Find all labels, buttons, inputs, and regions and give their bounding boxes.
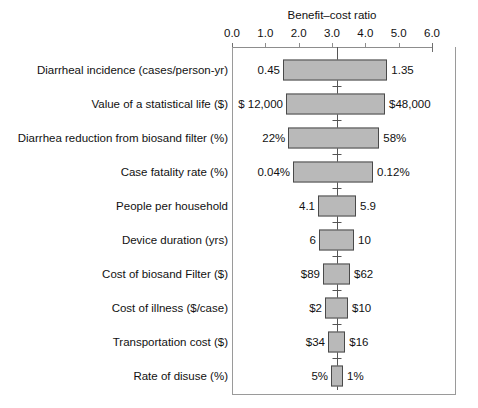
chart-row: Device duration (yrs)610 (0, 223, 478, 257)
bar-low-value-label: 6 (0, 234, 316, 246)
chart-row: Value of a statistical life ($)$ 12,000$… (0, 87, 478, 121)
bar-high-value-label: 1% (347, 370, 364, 382)
x-tick-label: 2.0 (291, 27, 307, 39)
axis-title: Benefit–cost ratio (232, 9, 432, 21)
bar-high-value-label: 58% (383, 132, 406, 144)
x-tick-label: 4.0 (357, 27, 373, 39)
bar-low-value-label: 5% (0, 370, 328, 382)
x-tick-label: 3.0 (324, 27, 340, 39)
tornado-bar (286, 94, 385, 115)
bar-low-value-label: 0.45 (0, 64, 280, 76)
chart-row: Diarrhea reduction from biosand filter (… (0, 121, 478, 155)
bar-low-value-label: 22% (0, 132, 285, 144)
bar-low-value-label: 0.04% (0, 166, 290, 178)
bar-high-value-label: 10 (358, 234, 371, 246)
bar-low-value-label: $34 (0, 336, 325, 348)
x-tick-label: 6.0 (424, 27, 440, 39)
tornado-bar (328, 332, 345, 353)
chart-row: Rate of disuse (%)5%1% (0, 359, 478, 393)
bar-high-value-label: $48,000 (389, 98, 431, 110)
tornado-bar (283, 60, 387, 81)
bar-high-value-label: 1.35 (391, 64, 413, 76)
tornado-bar (323, 264, 350, 285)
bar-low-value-label: $2 (0, 302, 322, 314)
bar-high-value-label: $62 (354, 268, 373, 280)
tornado-bar (325, 298, 348, 319)
chart-row: Case fatality rate (%)0.04%0.12% (0, 155, 478, 189)
x-tick-label: 5.0 (391, 27, 407, 39)
x-tick-label: 0.0 (224, 27, 240, 39)
bar-high-value-label: 5.9 (360, 200, 376, 212)
bar-low-value-label: $89 (0, 268, 320, 280)
tornado-chart: Benefit–cost ratio 0.01.02.03.04.05.06.0… (0, 0, 478, 408)
chart-row: Cost of illness ($/case)$2$10 (0, 291, 478, 325)
tornado-bar (319, 230, 354, 251)
tornado-bar (318, 196, 356, 217)
chart-row: People per household4.15.9 (0, 189, 478, 223)
bar-low-value-label: 4.1 (0, 200, 315, 212)
bar-high-value-label: 0.12% (377, 166, 410, 178)
tornado-bar (288, 128, 379, 149)
chart-row: Transportation cost ($)$34$16 (0, 325, 478, 359)
tornado-bar (293, 162, 373, 183)
chart-row: Diarrheal incidence (cases/person-yr)0.4… (0, 53, 478, 87)
x-tick-label: 1.0 (257, 27, 273, 39)
chart-row: Cost of biosand Filter ($)$89$62 (0, 257, 478, 291)
tornado-bar (331, 366, 343, 387)
bar-low-value-label: $ 12,000 (0, 98, 283, 110)
bar-high-value-label: $16 (349, 336, 368, 348)
bar-high-value-label: $10 (352, 302, 371, 314)
